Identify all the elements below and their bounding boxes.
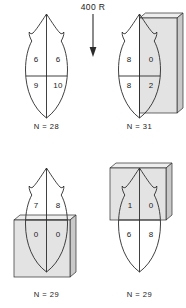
quadrant-lower-left-value: 9: [30, 81, 42, 90]
sample-size-label: N = 29: [0, 290, 93, 299]
quadrant-lower-right-value: 8: [145, 230, 157, 239]
sample-size-label: N = 28: [0, 122, 93, 131]
quadrant-upper-left-value: 6: [30, 55, 42, 64]
panel-top-left: 6 6 9 10 N = 28: [0, 0, 93, 154]
quadrant-upper-right-value: 0: [145, 55, 157, 64]
quadrant-lower-right-value: 2: [145, 81, 157, 90]
irradiation-block-icon: [14, 215, 76, 277]
quadrant-upper-right-value: 8: [52, 201, 64, 210]
quadrant-upper-left-value: 8: [123, 55, 135, 64]
quadrant-lower-right-value: 10: [51, 81, 65, 90]
specimen-diagram: 7 8 0 0: [0, 154, 93, 288]
specimen-diagram: 8 0 8 2: [93, 0, 186, 134]
sample-size-label: N = 31: [93, 122, 186, 131]
quadrant-lower-left-value: 6: [123, 230, 135, 239]
quadrant-lower-left-value: 0: [30, 230, 42, 239]
quadrant-upper-right-value: 6: [52, 55, 64, 64]
figure-canvas: 400 R 6 6 9 10 N = 28: [0, 0, 186, 308]
quadrant-upper-right-value: 0: [145, 201, 157, 210]
panel-bottom-right: 1 0 6 8 N = 29: [93, 154, 186, 308]
leaf-outline-icon: [26, 14, 68, 118]
quadrant-upper-left-value: 7: [30, 201, 42, 210]
quadrant-lower-right-value: 0: [52, 230, 64, 239]
panel-top-right: 8 0 8 2 N = 31: [93, 0, 186, 154]
specimen-diagram: 1 0 6 8: [93, 154, 186, 288]
specimen-diagram: 6 6 9 10: [0, 0, 93, 134]
quadrant-upper-left-value: 1: [124, 201, 136, 210]
panel-bottom-left: 7 8 0 0 N = 29: [0, 154, 93, 308]
quadrant-lower-left-value: 8: [123, 81, 135, 90]
sample-size-label: N = 29: [93, 290, 186, 299]
